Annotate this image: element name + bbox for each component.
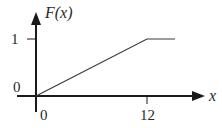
y-tick-label-0: 0 — [13, 79, 21, 95]
y-tick-label-1: 1 — [11, 31, 19, 47]
x-tick-label-0: 0 — [40, 107, 48, 123]
x-axis-label: x — [208, 87, 216, 104]
cdf-line — [36, 39, 175, 96]
x-tick-label-12: 12 — [140, 107, 155, 123]
cdf-chart: F(x) x 1 0 0 12 — [0, 0, 222, 128]
x-axis-arrow-icon — [192, 91, 205, 101]
y-axis-arrow-icon — [31, 12, 41, 25]
y-axis-label: F(x) — [44, 4, 73, 22]
